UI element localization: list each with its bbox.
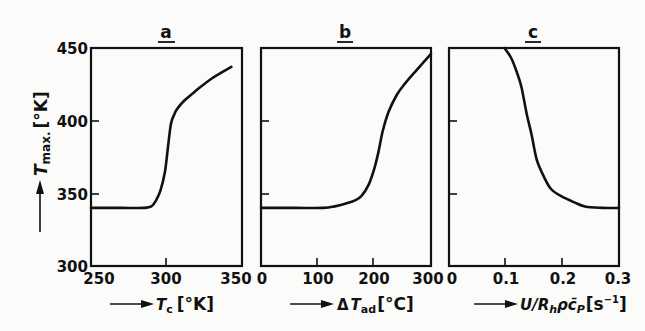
panel-c-xtick-label: 0.3 (605, 270, 632, 288)
panel-c: c 0 0.1 0.2 0.3 U/Rhρc̄P[s−1] (447, 22, 632, 316)
panel-c-frame (449, 48, 619, 266)
xlabel-unit: [°C] (377, 294, 414, 314)
panel-a-xtick-label: 350 (220, 270, 251, 288)
panel-a-title: a (160, 22, 171, 42)
xlabel-delta: Δ (337, 296, 349, 314)
y-tick-labels: 300 350 400 450 (57, 40, 88, 276)
panel-c-curve (505, 48, 620, 208)
xlabel-unit: [s (586, 294, 604, 314)
y-label-unit: [°K] (31, 91, 51, 128)
y-tick-350: 350 (57, 186, 88, 204)
panel-b-xtick-label: 0 (257, 270, 267, 288)
xlabel-subscript: h (549, 303, 557, 316)
xlabel-rho-cp: ρc̄ (557, 296, 577, 314)
arrow-up-icon (36, 180, 44, 194)
panel-b-xtick-label: 100 (302, 270, 333, 288)
y-axis-title: Tmax.[°K] (31, 91, 53, 176)
panel-a-xtick-label: 300 (150, 270, 181, 288)
panel-a-xlabel: Tc[°K] (156, 294, 214, 316)
panel-b-xtick-label: 200 (358, 270, 389, 288)
arrow-right-icon (141, 300, 154, 308)
panel-c-xtick-label: 0 (447, 270, 457, 288)
panel-c-xtick-label: 0.1 (493, 270, 520, 288)
y-tick-450: 450 (57, 40, 88, 58)
panel-b-title: b (339, 22, 351, 42)
panel-b-xtick-label: 300 (412, 270, 443, 288)
y-tick-400: 400 (57, 113, 88, 131)
arrow-right-icon (321, 300, 334, 308)
panel-a: a 250 300 350 Tc[°K] (83, 22, 251, 316)
panel-a-curve (91, 67, 231, 208)
panel-b: b 0 100 200 300 ΔTad[°C] (257, 22, 444, 316)
xlabel-bracket: ] (619, 294, 627, 314)
xlabel-unit: [°K] (177, 294, 214, 314)
y-label-subscript: max. (39, 131, 53, 164)
panel-b-xlabel: ΔTad[°C] (337, 294, 414, 316)
xlabel-subscript: c (166, 303, 173, 316)
figure: Tmax.[°K] 300 350 400 450 a 250 300 350 … (0, 0, 645, 331)
panel-c-xlabel: U/Rhρc̄P[s−1] (520, 294, 627, 316)
panel-c-xtick-label: 0.2 (550, 270, 577, 288)
y-axis-label: Tmax.[°K] (31, 91, 53, 232)
xlabel-subscript-p: P (577, 303, 585, 316)
panel-b-frame (261, 48, 431, 266)
xlabel-symbol: U/R (520, 296, 549, 314)
arrow-right-icon (505, 300, 518, 308)
panel-a-xtick-label: 250 (83, 270, 114, 288)
panel-b-curve (261, 54, 431, 208)
xlabel-superscript: −1 (604, 294, 619, 305)
xlabel-subscript: ad (361, 303, 376, 316)
panel-c-title: c (528, 22, 538, 42)
